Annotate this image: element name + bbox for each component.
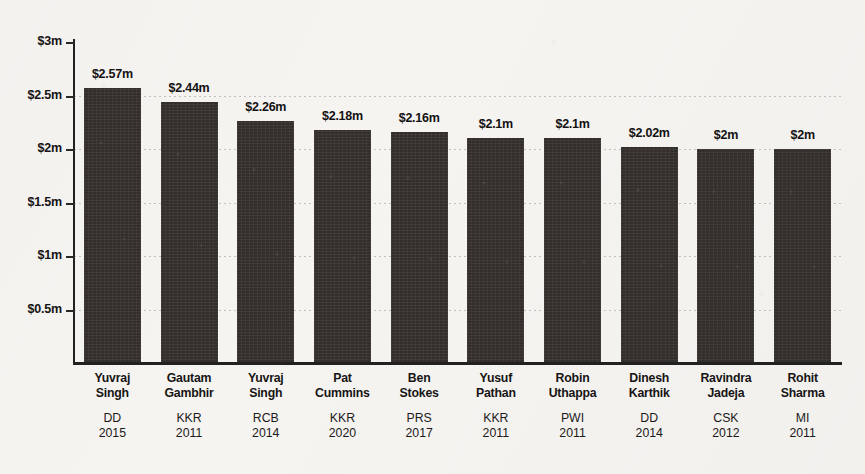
bar[interactable] (237, 121, 294, 363)
x-axis-category: RobinUthappaPWI2011 (528, 371, 617, 440)
y-axis-tick (66, 256, 75, 258)
y-axis-label: $2m (4, 141, 62, 155)
bar[interactable] (314, 130, 371, 363)
bar-fill (161, 102, 218, 363)
player-name-line2: Singh (68, 386, 157, 401)
player-name-line1: Pat (298, 371, 387, 386)
year-label: 2014 (605, 426, 694, 441)
player-name-line1: Gautam (145, 371, 234, 386)
team-label: DD (68, 411, 157, 426)
bar[interactable] (161, 102, 218, 363)
bar-fill (84, 88, 141, 363)
bar-value-label: $2m (766, 128, 839, 142)
player-name-line2: Pathan (452, 386, 541, 401)
year-label: 2017 (375, 426, 464, 441)
bar[interactable] (84, 88, 141, 363)
year-label: 2012 (682, 426, 771, 441)
year-label: 2020 (298, 426, 387, 441)
x-axis-category: BenStokesPRS2017 (375, 371, 464, 440)
bar[interactable] (697, 149, 754, 363)
player-name-line1: Dinesh (605, 371, 694, 386)
bar[interactable] (467, 138, 524, 363)
y-axis-label: $0.5m (4, 302, 62, 316)
year-label: 2011 (758, 426, 847, 441)
bar-fill (391, 132, 448, 363)
bar-value-label: $2.18m (306, 109, 379, 123)
y-axis-tick (66, 149, 75, 151)
x-axis-category: YuvrajSinghRCB2014 (221, 371, 310, 440)
y-axis-tick (66, 203, 75, 205)
x-axis-category: RavindraJadejaCSK2012 (682, 371, 771, 440)
player-name-line2: Sharma (758, 386, 847, 401)
team-label: KKR (145, 411, 234, 426)
bar-value-label: $2.26m (229, 100, 302, 114)
player-name-line1: Yuvraj (68, 371, 157, 386)
team-label: MI (758, 411, 847, 426)
year-label: 2011 (452, 426, 541, 441)
bar[interactable] (391, 132, 448, 363)
bar-fill (467, 138, 524, 363)
player-name-line1: Ben (375, 371, 464, 386)
player-name-line1: Rohit (758, 371, 847, 386)
player-name-line2: Gambhir (145, 386, 234, 401)
bar[interactable] (774, 149, 831, 363)
player-name-line1: Robin (528, 371, 617, 386)
bar-value-label: $2.57m (76, 67, 149, 81)
team-label: PRS (375, 411, 464, 426)
y-axis-tick (66, 310, 75, 312)
team-label: CSK (682, 411, 771, 426)
y-axis-label: $2.5m (4, 88, 62, 102)
x-axis-category: YuvrajSinghDD2015 (68, 371, 157, 440)
bar-fill (237, 121, 294, 363)
player-name-line2: Karthik (605, 386, 694, 401)
x-axis-line (73, 362, 842, 365)
bar-fill (774, 149, 831, 363)
bar-value-label: $2.1m (536, 117, 609, 131)
team-label: PWI (528, 411, 617, 426)
bar-value-label: $2.1m (459, 117, 532, 131)
bar-fill (621, 147, 678, 363)
team-label: KKR (452, 411, 541, 426)
y-axis-tick (66, 42, 75, 44)
y-axis-label: $3m (4, 34, 62, 48)
bar[interactable] (621, 147, 678, 363)
bar-value-label: $2.02m (613, 126, 686, 140)
bar-chart: $0.5m$1m$1.5m$2m$2.5m$3m YuvrajSinghDD20… (0, 0, 865, 474)
x-axis-category: PatCumminsKKR2020 (298, 371, 387, 440)
y-axis-label: $1m (4, 248, 62, 262)
player-name-line2: Jadeja (682, 386, 771, 401)
year-label: 2014 (221, 426, 310, 441)
team-label: RCB (221, 411, 310, 426)
team-label: KKR (298, 411, 387, 426)
year-label: 2011 (145, 426, 234, 441)
gridline (74, 96, 841, 97)
x-axis-category: YusufPathanKKR2011 (452, 371, 541, 440)
bar-value-label: $2m (689, 128, 762, 142)
bar-value-label: $2.44m (153, 81, 226, 95)
bar-fill (314, 130, 371, 363)
y-axis-tick (66, 96, 75, 98)
player-name-line2: Stokes (375, 386, 464, 401)
y-axis-label-group: $0.5m$1m$1.5m$2m$2.5m$3m (0, 0, 62, 474)
player-name-line2: Cummins (298, 386, 387, 401)
bar-value-label: $2.16m (383, 111, 456, 125)
player-name-line1: Yusuf (452, 371, 541, 386)
y-axis-label: $1.5m (4, 195, 62, 209)
year-label: 2011 (528, 426, 617, 441)
player-name-line1: Ravindra (682, 371, 771, 386)
team-label: DD (605, 411, 694, 426)
bar-fill (697, 149, 754, 363)
player-name-line2: Singh (221, 386, 310, 401)
player-name-line1: Yuvraj (221, 371, 310, 386)
bar-fill (544, 138, 601, 363)
x-axis-category: GautamGambhirKKR2011 (145, 371, 234, 440)
x-axis-category: RohitSharmaMI2011 (758, 371, 847, 440)
bar[interactable] (544, 138, 601, 363)
x-axis-category: DineshKarthikDD2014 (605, 371, 694, 440)
year-label: 2015 (68, 426, 157, 441)
player-name-line2: Uthappa (528, 386, 617, 401)
